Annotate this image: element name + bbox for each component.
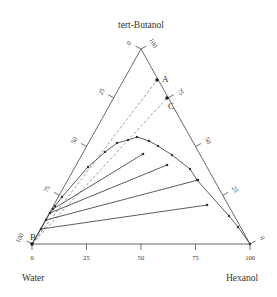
dashed-line: [32, 80, 157, 244]
tick-left: [81, 144, 87, 147]
vertex-label-hexanol: Hexanol: [226, 273, 259, 283]
tick-left: [136, 46, 142, 49]
tick-label-left: 0: [124, 40, 132, 46]
dashed-line: [32, 98, 167, 244]
tick-right: [168, 95, 174, 98]
tick-label-right: 100: [148, 37, 159, 49]
tick-label-right: 75: [176, 87, 185, 96]
tick-left: [54, 192, 60, 195]
tick-label-left: 100: [14, 232, 25, 244]
tick-right: [223, 192, 229, 195]
binodal-point: [189, 168, 191, 170]
tick-label-left: 50: [69, 136, 78, 145]
tick-left: [108, 95, 114, 98]
binodal-point: [148, 140, 150, 142]
tick-label-left: 25: [96, 87, 105, 96]
dashed-lines: [32, 80, 167, 244]
vertex-label-water: Water: [22, 273, 45, 283]
key-point-c: [165, 96, 169, 100]
key-point-b: [30, 242, 34, 246]
tie-line-endpoint: [206, 204, 209, 207]
binodal-point: [237, 226, 239, 228]
binodal-point: [249, 243, 251, 245]
tick-label-right: 0: [259, 235, 267, 241]
binodal-point: [228, 215, 230, 217]
binodal-point: [52, 208, 54, 210]
point-label-b: B: [30, 232, 36, 242]
tie-line-endpoint: [142, 153, 145, 156]
tick-label-bottom: 0: [30, 254, 33, 261]
binodal-point: [45, 219, 47, 221]
tie-line: [50, 165, 167, 213]
binodal-point: [157, 145, 159, 147]
point-label-c: C: [168, 101, 174, 111]
ternary-plot: 025507510002550751001007550250 tert-Buta…: [0, 0, 277, 297]
tick-label-right: 50: [204, 136, 213, 145]
vertex-label-tert-butanol: tert-Butanol: [118, 20, 164, 30]
binodal-line: [32, 137, 250, 244]
binodal-point: [61, 196, 63, 198]
tick-label-bottom: 100: [245, 254, 255, 261]
binodal-point: [40, 228, 42, 230]
tick-label-bottom: 75: [192, 254, 199, 261]
binodal-point: [171, 154, 173, 156]
binodal-point: [49, 212, 51, 214]
tick-right: [196, 144, 202, 147]
ternary-diagram: 025507510002550751001007550250 tert-Buta…: [0, 0, 277, 297]
binodal-point: [104, 151, 106, 153]
binodal-point: [136, 136, 138, 138]
tick-right: [141, 46, 147, 49]
binodal-curve: [31, 136, 251, 245]
binodal-point: [196, 179, 198, 181]
binodal-point: [127, 139, 129, 141]
binodal-point: [116, 142, 118, 144]
key-point-a: [155, 78, 159, 82]
tick-label-right: 25: [231, 184, 240, 193]
binodal-point: [54, 205, 56, 207]
tie-line-endpoint: [166, 164, 169, 167]
tick-label-bottom: 50: [138, 254, 145, 261]
tick-label-bottom: 25: [83, 254, 90, 261]
tie-line: [46, 180, 198, 220]
binodal-point: [87, 166, 89, 168]
point-label-a: A: [162, 74, 169, 84]
tick-label-left: 75: [42, 184, 51, 193]
tie-line: [41, 205, 207, 229]
